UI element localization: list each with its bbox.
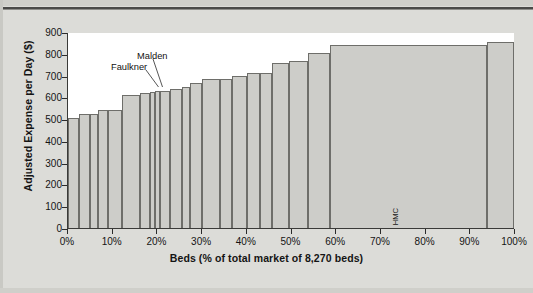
y-axis-tick-mark — [62, 33, 67, 34]
y-axis-tick-mark — [62, 55, 67, 56]
y-axis-tick-mark — [62, 98, 67, 99]
y-axis-tick-mark — [62, 185, 67, 186]
y-axis-tick-mark — [62, 77, 67, 78]
y-axis-tick-mark — [62, 120, 67, 121]
bar-chart: Adjusted Expense per Day ($) 90080070060… — [0, 0, 533, 293]
annotation-leader-lines — [0, 0, 533, 293]
y-axis-tick-mark — [62, 229, 67, 230]
scanned-figure-page: Adjusted Expense per Day ($) 90080070060… — [0, 0, 533, 293]
y-axis-tick-mark — [62, 142, 67, 143]
y-axis-tick-mark — [62, 207, 67, 208]
y-axis-tick-mark — [62, 164, 67, 165]
